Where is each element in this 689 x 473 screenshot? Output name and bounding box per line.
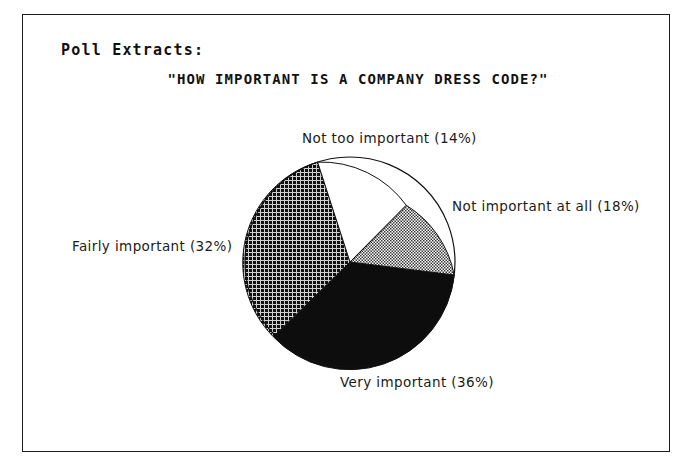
page-title: Poll Extracts:	[61, 41, 204, 59]
chart-title: "HOW IMPORTANT IS A COMPANY DRESS CODE?"	[23, 71, 669, 87]
poll-extract-panel: Poll Extracts: "HOW IMPORTANT IS A COMPA…	[22, 14, 670, 452]
